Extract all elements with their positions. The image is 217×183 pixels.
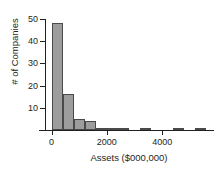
x-tick-label: 0 xyxy=(34,137,70,147)
y-tick-mark xyxy=(40,108,45,109)
histogram-figure: 1020304050 020004000 Assets ($000,000) #… xyxy=(0,0,217,183)
x-tick-mark xyxy=(162,130,163,135)
x-tick-mark xyxy=(107,130,108,135)
y-tick-label: 50 xyxy=(18,15,38,24)
x-tick-mark xyxy=(52,130,53,135)
plot-area xyxy=(46,19,212,130)
x-tick-label: 4000 xyxy=(144,137,180,147)
x-axis-line xyxy=(39,130,214,131)
y-tick-label: 20 xyxy=(18,82,38,91)
x-tick-label: 2000 xyxy=(89,137,125,147)
x-axis-label: Assets ($000,000) xyxy=(46,152,212,163)
y-tick-label: 30 xyxy=(18,59,38,68)
histogram-bar xyxy=(74,119,85,130)
histogram-bar xyxy=(85,121,96,130)
y-tick-mark xyxy=(40,41,45,42)
y-tick-label: 40 xyxy=(18,37,38,46)
histogram-bar xyxy=(63,94,74,130)
y-axis-line xyxy=(45,19,46,131)
y-axis-label: # of Companies xyxy=(9,10,20,94)
y-tick-mark xyxy=(40,19,45,20)
histogram-bar xyxy=(52,23,63,130)
y-tick-mark xyxy=(40,63,45,64)
y-tick-label: 10 xyxy=(18,104,38,113)
y-tick-mark xyxy=(40,86,45,87)
